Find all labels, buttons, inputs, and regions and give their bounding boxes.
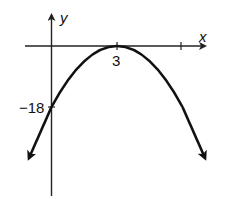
y-axis-label: y [60,10,68,25]
y-intercept-label: −18 [19,100,44,115]
x-axis-label: x [199,29,207,44]
parabola-right-tail [183,107,206,158]
vertex-tick-label: 3 [112,53,120,68]
